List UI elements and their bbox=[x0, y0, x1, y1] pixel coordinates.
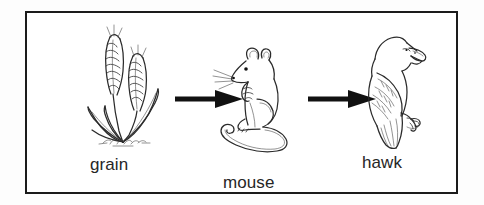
organism-label-hawk: hawk bbox=[362, 153, 402, 173]
figure-border-frame: grain bbox=[25, 11, 458, 194]
food-chain-diagram: grain bbox=[0, 0, 484, 205]
mouse-icon bbox=[205, 41, 311, 149]
hawk-icon bbox=[337, 21, 437, 151]
organism-label-grain: grain bbox=[90, 155, 128, 175]
wheat-grain-icon bbox=[63, 23, 178, 148]
chain-stage-mouse: mouse bbox=[205, 41, 311, 149]
chain-stage-hawk: hawk bbox=[337, 21, 437, 151]
chain-stage-grain: grain bbox=[63, 23, 178, 148]
organism-label-mouse: mouse bbox=[223, 173, 275, 193]
